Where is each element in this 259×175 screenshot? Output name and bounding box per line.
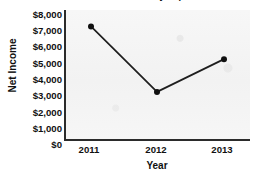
- y-axis-label: Net Income: [7, 21, 18, 111]
- x-tick-label: 2012: [133, 144, 179, 155]
- chart-figure: Net Income as Historically Reported Net …: [0, 0, 259, 175]
- net-income-line-series: [66, 10, 252, 141]
- x-tick-label: 2011: [66, 144, 112, 155]
- y-tick-label: $2,000: [18, 108, 62, 118]
- x-tick-label: 2013: [199, 144, 245, 155]
- y-tick-label: $6,000: [18, 42, 62, 52]
- data-point-marker: [88, 23, 94, 29]
- data-point-marker: [221, 56, 227, 62]
- y-tick-label: $0: [18, 140, 62, 150]
- x-axis-tick-labels: 2011 2012 2013: [64, 144, 250, 157]
- x-axis-label: Year: [64, 160, 250, 171]
- y-tick-label: $1,000: [18, 124, 62, 134]
- plot-area: [64, 10, 250, 141]
- series-polyline: [91, 26, 224, 92]
- y-axis-tick-labels: $8,000 $7,000 $6,000 $5,000 $4,000 $3,00…: [18, 4, 62, 149]
- series-markers: [88, 23, 227, 95]
- y-tick-label: $3,000: [18, 91, 62, 101]
- y-tick-label: $8,000: [18, 10, 62, 20]
- y-tick-label: $4,000: [18, 75, 62, 85]
- y-tick-label: $5,000: [18, 59, 62, 69]
- y-tick-label: $7,000: [18, 26, 62, 36]
- data-point-marker: [154, 89, 160, 95]
- chart-title: Net Income as Historically Reported: [0, 0, 259, 1]
